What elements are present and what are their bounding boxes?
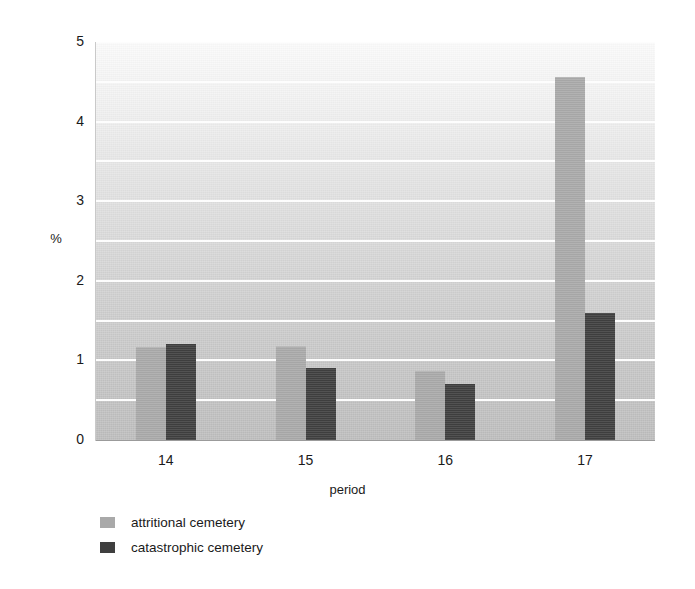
chart-legend: attritional cemeterycatastrophic cemeter… <box>100 510 263 560</box>
bar-14-attritional <box>136 347 166 440</box>
gridline <box>96 42 655 43</box>
bar-chart: % 012345 14151617 period attritional cem… <box>0 0 695 589</box>
y-tick-label-4: 4 <box>46 113 84 129</box>
bar-14-catastrophic <box>166 344 196 440</box>
bar-17-catastrophic <box>585 313 615 440</box>
bar-15-attritional <box>276 346 306 440</box>
bar-16-attritional <box>415 371 445 440</box>
x-tick-label-14: 14 <box>136 452 196 468</box>
legend-label: catastrophic cemetery <box>131 540 263 555</box>
x-axis-title: period <box>0 482 695 497</box>
legend-label: attritional cemetery <box>131 515 245 530</box>
y-tick-label-0: 0 <box>46 431 84 447</box>
bar-texture <box>276 347 306 440</box>
legend-item-catastrophic-cemetery: catastrophic cemetery <box>100 535 263 560</box>
y-tick-label-5: 5 <box>46 33 84 49</box>
bar-texture <box>136 348 166 440</box>
y-tick-label-3: 3 <box>46 192 84 208</box>
legend-swatch-icon <box>100 542 115 553</box>
bar-texture <box>555 78 585 440</box>
bar-texture <box>415 372 445 440</box>
x-axis-line <box>96 440 655 441</box>
legend-swatch-icon <box>100 517 115 528</box>
y-tick-label-1: 1 <box>46 351 84 367</box>
x-tick-label-17: 17 <box>555 452 615 468</box>
bar-texture <box>166 344 196 440</box>
y-tick-label-2: 2 <box>46 272 84 288</box>
bar-texture <box>585 313 615 440</box>
bar-15-catastrophic <box>306 368 336 440</box>
x-tick-label-16: 16 <box>415 452 475 468</box>
bar-texture <box>445 384 475 440</box>
bar-16-catastrophic <box>445 384 475 440</box>
plot-area <box>96 42 655 440</box>
bar-17-attritional <box>555 77 585 440</box>
x-tick-label-15: 15 <box>276 452 336 468</box>
legend-item-attritional-cemetery: attritional cemetery <box>100 510 263 535</box>
y-axis-tick-labels: 012345 <box>46 0 84 589</box>
bar-texture <box>306 368 336 440</box>
y-axis-line <box>95 42 96 441</box>
